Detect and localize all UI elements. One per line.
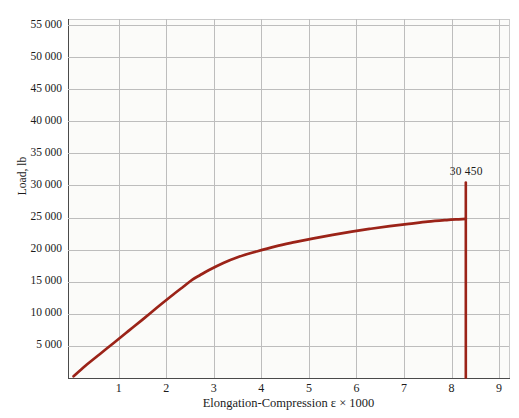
x-axis-title: Elongation-Compression ε × 1000 [68,396,509,411]
gridline-vertical [499,19,500,378]
x-axis-tick-label: 7 [389,381,419,396]
x-axis-tick-label: 4 [246,381,276,396]
gridline-vertical [166,19,167,378]
x-axis-tick-label: 6 [341,381,371,396]
plot-frame-top [68,19,510,20]
x-axis-tick-label: 5 [294,381,324,396]
gridline-vertical [309,19,310,378]
y-axis-title: Load, lb [16,136,28,216]
y-axis-tick-label: 30 000 [0,178,62,190]
gridline-horizontal [68,250,509,251]
plot-frame-right [509,19,510,379]
gridline-horizontal [68,346,509,347]
y-axis-tick-label: 40 000 [0,114,62,126]
gridline-vertical [261,19,262,378]
gridline-vertical [356,19,357,378]
gridline-horizontal [68,314,509,315]
gridline-horizontal [68,25,509,26]
y-axis-tick-label: 10 000 [0,306,62,318]
plot-area [68,19,509,378]
gridline-horizontal [68,57,509,58]
gridline-horizontal [68,282,509,283]
x-axis-tick-label: 2 [151,381,181,396]
gridline-vertical [214,19,215,378]
y-axis-line [68,19,69,379]
data-point-annotation: 30 450 [450,165,483,177]
gridline-vertical [119,19,120,378]
gridline-horizontal [68,89,509,90]
gridline-vertical [452,19,453,378]
x-axis-tick-label: 8 [437,381,467,396]
gridline-horizontal [68,218,509,219]
x-axis-line [68,378,510,379]
y-axis-tick-label: 50 000 [0,50,62,62]
x-axis-tick-label: 3 [199,381,229,396]
y-axis-tick-label: 45 000 [0,82,62,94]
x-axis-tick-label: 9 [484,381,514,396]
gridline-vertical [404,19,405,378]
y-axis-tick-label: 35 000 [0,146,62,158]
x-axis-tick-label: 1 [104,381,134,396]
y-axis-tick-label: 15 000 [0,274,62,286]
y-axis-tick-label: 55 000 [0,18,62,30]
chart-figure: 5 00010 00015 00020 00025 00030 00035 00… [0,0,519,418]
y-axis-tick-label: 20 000 [0,242,62,254]
gridline-horizontal [68,185,509,186]
gridline-horizontal [68,153,509,154]
gridline-horizontal [68,121,509,122]
y-axis-tick-label: 5 000 [0,338,62,350]
y-axis-tick-label: 25 000 [0,210,62,222]
